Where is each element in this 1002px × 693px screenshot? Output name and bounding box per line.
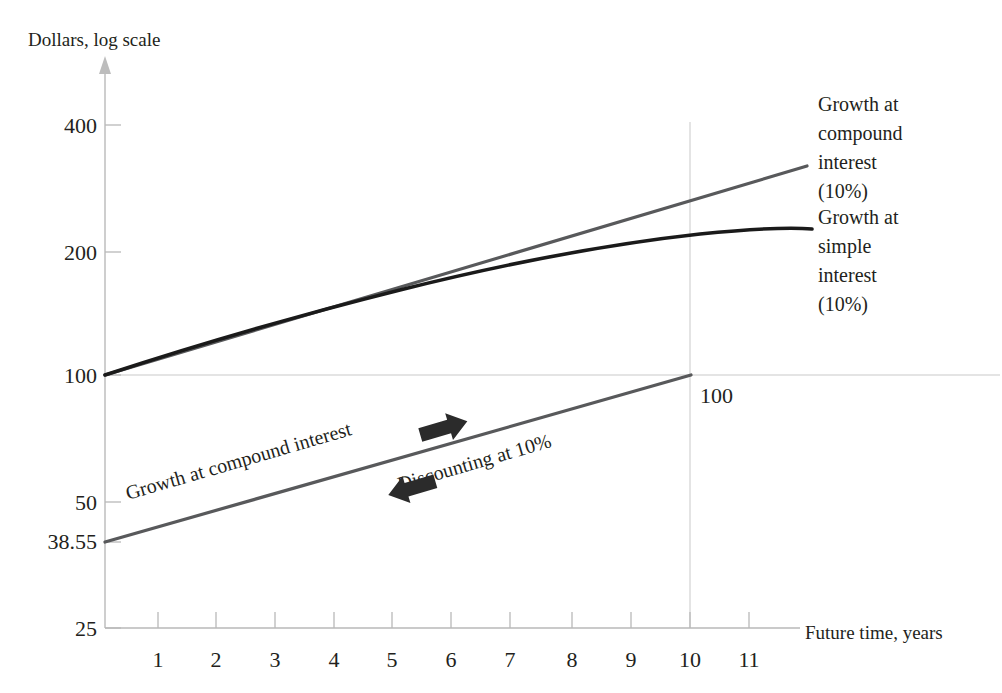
x-tick-label-11: 11 [738, 647, 759, 672]
simple-callout-line-1: Growth at [818, 206, 899, 228]
compound-callout-line-3: interest [818, 151, 877, 173]
compound-callout-line-1: Growth at [818, 93, 899, 115]
simple-callout-line-3: interest [818, 264, 877, 286]
series-line-discounting [105, 375, 691, 542]
y-axis-arrowhead-icon [99, 56, 111, 74]
y-tick-label-3855: 38.55 [48, 529, 98, 554]
x-tick-label-8: 8 [567, 647, 578, 672]
x-tick-label-7: 7 [505, 647, 516, 672]
chart-container: Dollars, log scale 400 200 100 50 38.55 [0, 0, 1002, 693]
x-tick-label-4: 4 [329, 647, 340, 672]
data-series [105, 166, 812, 542]
compound-callout: Growth at compound interest (10%) [818, 93, 902, 203]
x-tick-label-3: 3 [270, 647, 281, 672]
y-tick-label-100: 100 [64, 363, 97, 388]
simple-callout-line-4: (10%) [818, 293, 868, 316]
compound-callout-line-2: compound [818, 122, 902, 145]
x-tick-label-2: 2 [211, 647, 222, 672]
y-axis: 400 200 100 50 38.55 25 [48, 56, 122, 641]
x-tick-label-9: 9 [626, 647, 637, 672]
x-tick-label-10: 10 [679, 647, 701, 672]
compound-callout-line-4: (10%) [818, 180, 868, 203]
x-axis: 1 2 3 4 5 6 7 8 9 10 11 Future time, yea… [105, 612, 943, 672]
x-tick-label-5: 5 [387, 647, 398, 672]
growth-direction-arrow-icon [416, 408, 471, 449]
x-tick-label-6: 6 [446, 647, 457, 672]
simple-callout-line-2: simple [818, 235, 871, 258]
reference-value-100: 100 [700, 383, 733, 408]
growth-direction-label: Growth at compound interest [123, 417, 354, 504]
y-tick-label-50: 50 [75, 490, 97, 515]
log-scale-growth-chart: Dollars, log scale 400 200 100 50 38.55 [0, 0, 1002, 693]
y-tick-label-200: 200 [64, 240, 97, 265]
simple-callout: Growth at simple interest (10%) [818, 206, 899, 316]
series-line-simple-growth [105, 228, 812, 375]
x-axis-title: Future time, years [805, 622, 943, 643]
y-axis-title: Dollars, log scale [28, 29, 160, 50]
x-tick-label-1: 1 [153, 647, 164, 672]
y-tick-label-25: 25 [75, 616, 97, 641]
y-tick-label-400: 400 [64, 113, 97, 138]
